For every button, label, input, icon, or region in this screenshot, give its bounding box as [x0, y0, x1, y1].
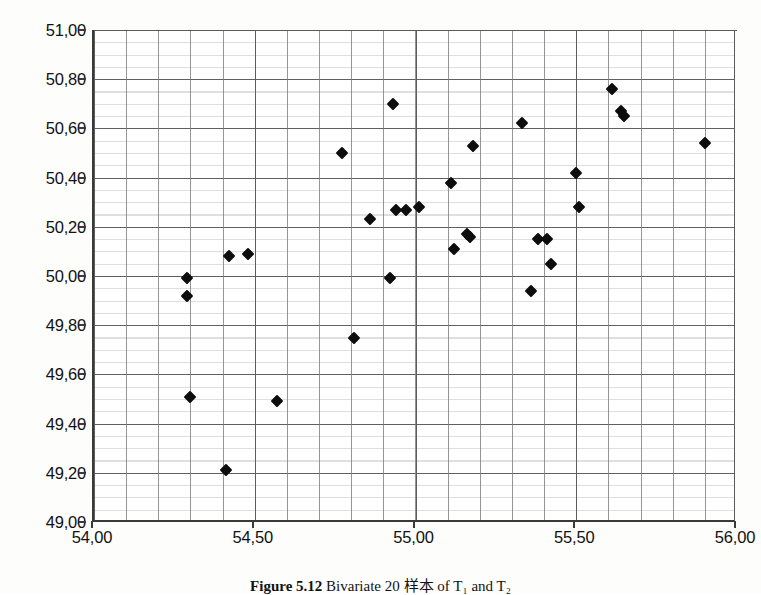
x-axis-tick-mark [734, 521, 736, 528]
grid-right-border [734, 30, 735, 522]
x-axis: 54,0054,5055,0055,5056,00 [92, 528, 735, 558]
x-axis-tick-mark [573, 521, 575, 528]
y-axis-tick-mark [79, 324, 86, 326]
caption-text: Bivariate 20 样本 of T₁ and T₂ [326, 578, 511, 594]
y-axis-tick-label: 50,00 [12, 267, 86, 286]
figure-caption: Figure 5.12 Bivariate 20 样本 of T₁ and T₂ [0, 574, 761, 595]
y-axis-tick-label: 50,20 [12, 217, 86, 236]
y-axis-tick-label: 49,20 [12, 463, 86, 482]
y-axis-tick-label: 49,80 [12, 316, 86, 335]
y-axis-tick-mark [79, 177, 86, 179]
caption-label: Figure 5.12 [250, 578, 322, 594]
y-axis: 49,0049,2049,4049,6049,8050,0050,2050,40… [0, 30, 86, 522]
plot-area [92, 30, 735, 522]
y-axis-tick-label: 50,80 [12, 70, 86, 89]
y-axis-tick-label: 49,40 [12, 414, 86, 433]
x-axis-tick-mark [252, 521, 254, 528]
y-axis-tick-label: 50,60 [12, 119, 86, 138]
x-axis-tick-label: 54,00 [72, 528, 112, 547]
y-axis-tick-mark [79, 275, 86, 277]
x-axis-tick-mark [413, 521, 415, 528]
y-axis-tick-mark [79, 78, 86, 80]
x-axis-tick-label: 55,00 [393, 528, 433, 547]
y-axis-tick-label: 51,00 [12, 21, 86, 40]
y-axis-tick-mark [79, 29, 86, 31]
x-axis-tick-label: 55,50 [554, 528, 594, 547]
y-axis-tick-label: 49,60 [12, 365, 86, 384]
y-axis-tick-mark [79, 226, 86, 228]
y-axis-tick-mark [79, 423, 86, 425]
y-axis-tick-mark [79, 472, 86, 474]
x-axis-tick-label: 56,00 [715, 528, 755, 547]
grid-top-border [94, 30, 737, 31]
y-axis-tick-label: 50,40 [12, 168, 86, 187]
x-axis-tick-mark [91, 521, 93, 528]
y-axis-tick-mark [79, 127, 86, 129]
x-axis-tick-label: 54,50 [233, 528, 273, 547]
y-axis-tick-mark [79, 373, 86, 375]
y-axis-tick-mark [79, 521, 86, 523]
